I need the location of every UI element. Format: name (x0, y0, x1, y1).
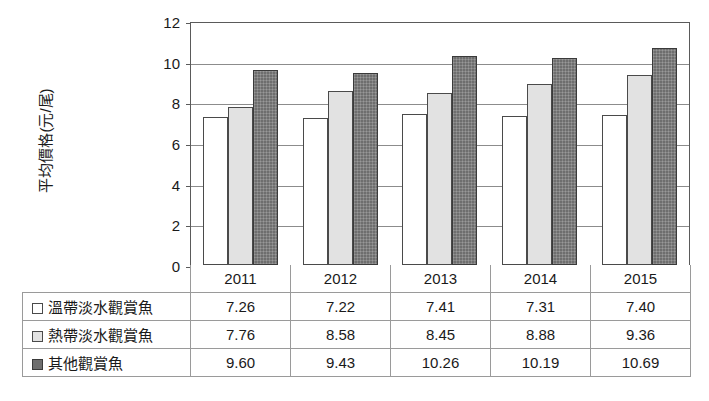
cell-value: 7.31 (526, 298, 555, 315)
y-axis-tick-labels: 121086420 (150, 22, 186, 266)
legend-swatch-icon (32, 359, 43, 370)
cell-2015-row-1: 7.40 (591, 293, 691, 321)
y-axis-title: 平均價格(元/尾) (34, 31, 55, 251)
bar-2014-series-3 (552, 58, 577, 265)
cell-value: 8.58 (326, 326, 355, 343)
bar-2014-series-2 (527, 84, 552, 265)
y-tick-label-2: 2 (172, 218, 180, 233)
y-tick-label-4: 4 (172, 177, 180, 192)
cell-2011-row-3: 9.60 (191, 349, 291, 377)
bar-group-2014 (490, 23, 590, 265)
table-header-row: 20112012201320142015 (23, 265, 691, 293)
cell-value: 9.43 (326, 354, 355, 371)
cell-value: 10.26 (422, 354, 460, 371)
column-header-label: 2013 (424, 270, 457, 287)
y-tick-label-10: 10 (163, 55, 180, 70)
data-table: 20112012201320142015溫帶淡水觀賞魚7.267.227.417… (22, 265, 691, 377)
column-header-2013: 2013 (391, 265, 491, 293)
legend-label: 溫帶淡水觀賞魚 (48, 299, 153, 316)
column-header-2014: 2014 (491, 265, 591, 293)
cell-2014-row-3: 10.19 (491, 349, 591, 377)
table-row: 其他觀賞魚9.609.4310.2610.1910.69 (23, 349, 691, 377)
legend-swatch-icon (32, 303, 43, 314)
cell-value: 7.40 (626, 298, 655, 315)
column-header-label: 2015 (624, 270, 657, 287)
plot-area (190, 22, 690, 266)
column-header-label: 2014 (524, 270, 557, 287)
cell-2015-row-2: 9.36 (591, 321, 691, 349)
column-header-label: 2012 (324, 270, 357, 287)
cell-value: 7.26 (226, 298, 255, 315)
table-row: 溫帶淡水觀賞魚7.267.227.417.317.40 (23, 293, 691, 321)
y-tick-label-8: 8 (172, 96, 180, 111)
cell-2014-row-1: 7.31 (491, 293, 591, 321)
cell-2015-row-3: 10.69 (591, 349, 691, 377)
bar-group-2015 (589, 23, 689, 265)
bar-group-2013 (390, 23, 490, 265)
bar-2011-series-2 (228, 107, 253, 265)
column-header-2015: 2015 (591, 265, 691, 293)
bar-2012-series-3 (353, 73, 378, 265)
bar-2011-series-1 (203, 117, 228, 265)
cell-value: 7.41 (426, 298, 455, 315)
legend-label: 其他觀賞魚 (48, 355, 123, 372)
column-header-label: 2011 (224, 270, 256, 287)
bar-2015-series-2 (627, 75, 652, 265)
bar-2013-series-2 (427, 93, 452, 265)
bar-group-2012 (291, 23, 391, 265)
cell-value: 7.22 (326, 298, 355, 315)
table-row: 熱帶淡水觀賞魚7.768.588.458.889.36 (23, 321, 691, 349)
legend-entry-3: 其他觀賞魚 (23, 349, 191, 377)
cell-2012-row-3: 9.43 (291, 349, 391, 377)
legend-label: 熱帶淡水觀賞魚 (48, 327, 153, 344)
cell-2014-row-2: 8.88 (491, 321, 591, 349)
cell-value: 10.69 (622, 354, 660, 371)
cell-2011-row-1: 7.26 (191, 293, 291, 321)
cell-2011-row-2: 7.76 (191, 321, 291, 349)
cell-value: 8.45 (426, 326, 455, 343)
cell-value: 7.76 (226, 326, 255, 343)
cell-2013-row-2: 8.45 (391, 321, 491, 349)
bar-2014-series-1 (502, 116, 527, 265)
cell-2013-row-1: 7.41 (391, 293, 491, 321)
cell-2012-row-1: 7.22 (291, 293, 391, 321)
legend-swatch-icon (32, 331, 43, 342)
bar-2015-series-3 (652, 48, 677, 265)
bar-2015-series-1 (602, 115, 627, 265)
column-header-2012: 2012 (291, 265, 391, 293)
bar-2011-series-3 (253, 70, 278, 265)
legend-entry-1: 溫帶淡水觀賞魚 (23, 293, 191, 321)
chart-figure: 平均價格(元/尾) 121086420 20112012201320142015… (0, 0, 709, 401)
cell-value: 8.88 (526, 326, 555, 343)
bar-2012-series-1 (303, 118, 328, 265)
cell-2013-row-3: 10.26 (391, 349, 491, 377)
bar-2013-series-3 (452, 56, 477, 265)
cell-value: 9.60 (226, 354, 255, 371)
cell-value: 9.36 (626, 326, 655, 343)
bar-2013-series-1 (402, 114, 427, 265)
bar-groups (191, 23, 689, 265)
table-corner-cell (23, 265, 191, 293)
bar-2012-series-2 (328, 91, 353, 265)
cell-value: 10.19 (522, 354, 560, 371)
cell-2012-row-2: 8.58 (291, 321, 391, 349)
bar-group-2011 (191, 23, 291, 265)
y-tick-label-12: 12 (163, 15, 180, 30)
legend-entry-2: 熱帶淡水觀賞魚 (23, 321, 191, 349)
y-tick-label-6: 6 (172, 137, 180, 152)
column-header-2011: 2011 (191, 265, 291, 293)
